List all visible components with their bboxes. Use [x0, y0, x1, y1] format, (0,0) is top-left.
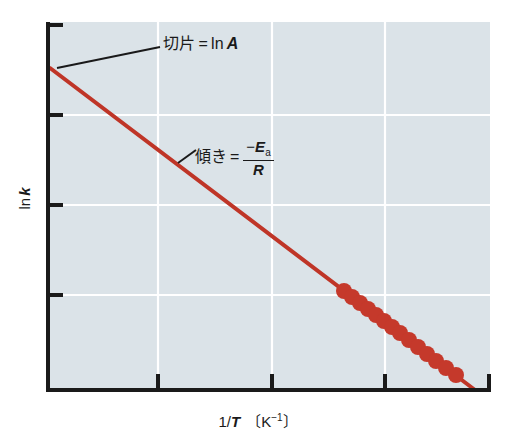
slope-numerator-subscript: a [265, 147, 271, 158]
y-axis-title-variable: k [16, 187, 33, 195]
x-axis-title: 1/T〔K−1〕 [0, 410, 516, 431]
arrhenius-plot-figure: 切片=lnA 傾き= −Ea R 1/T〔K−1〕 lnk [0, 0, 516, 447]
slope-annotation-jp: 傾き [195, 149, 227, 165]
intercept-annotation-ln: ln [211, 35, 224, 52]
x-axis-title-unit-exponent: −1 [271, 412, 282, 423]
intercept-annotation: 切片=lnA [163, 36, 239, 52]
slope-numerator-symbol: E [255, 138, 265, 155]
slope-annotation-fraction: −Ea R [243, 139, 273, 178]
slope-fraction-denominator: R [250, 161, 267, 178]
slope-fraction-numerator: −Ea [243, 139, 273, 160]
x-axis-title-variable: T [231, 413, 240, 430]
x-axis-title-unit-open: 〔K [246, 413, 271, 430]
intercept-annotation-jp: 切片 [163, 35, 195, 52]
y-axis-title: lnk [16, 169, 33, 229]
x-axis-title-unit-close: 〕 [283, 413, 298, 430]
intercept-annotation-variable: A [227, 35, 239, 52]
slope-annotation-equals: = [230, 149, 239, 165]
chart-canvas [0, 0, 516, 447]
y-axis-title-main: ln [16, 198, 33, 210]
slope-numerator-minus: − [246, 138, 255, 155]
intercept-annotation-equals: = [198, 35, 208, 52]
x-axis-title-main: 1/ [218, 413, 231, 430]
slope-annotation: 傾き= −Ea R [195, 138, 274, 177]
data-point [448, 367, 464, 383]
